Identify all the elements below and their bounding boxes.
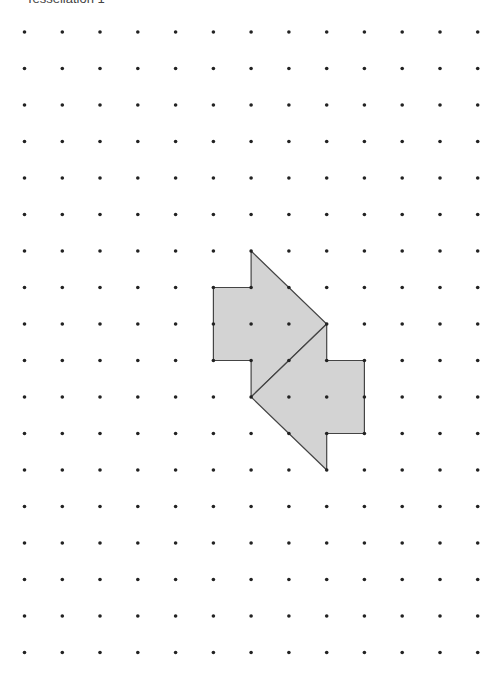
grid-dot (23, 505, 27, 509)
grid-dot (61, 541, 65, 545)
grid-dot (61, 176, 65, 180)
grid-dot (23, 468, 27, 472)
grid-dot (98, 578, 102, 582)
grid-dot (438, 359, 442, 363)
grid-dot (438, 176, 442, 180)
grid-dot (174, 651, 178, 655)
grid-dot (363, 651, 367, 655)
grid-dot (98, 322, 102, 326)
grid-dot (363, 176, 367, 180)
grid-dot (61, 322, 65, 326)
grid-dot (438, 505, 442, 509)
grid-dot (98, 359, 102, 363)
grid-dot (23, 541, 27, 545)
grid-dot (363, 505, 367, 509)
grid-dot (212, 505, 216, 509)
grid-dot (438, 286, 442, 290)
grid-dot (212, 578, 216, 582)
grid-dot (363, 140, 367, 144)
grid-dot (212, 176, 216, 180)
grid-dot (61, 286, 65, 290)
grid-dot (438, 322, 442, 326)
grid-dot (287, 30, 291, 34)
grid-dot (136, 468, 140, 472)
grid-dot (287, 541, 291, 545)
grid-dot (400, 359, 404, 363)
grid-dot (212, 395, 216, 399)
grid-dot (287, 578, 291, 582)
grid-dot (249, 213, 253, 217)
grid-dot (476, 541, 480, 545)
grid-dot (61, 395, 65, 399)
grid-dot (61, 468, 65, 472)
grid-dot (363, 614, 367, 618)
grid-dot (287, 213, 291, 217)
grid-dot (287, 67, 291, 71)
grid-dot (438, 67, 442, 71)
grid-dot (23, 651, 27, 655)
grid-dot (23, 395, 27, 399)
grid-dot (23, 176, 27, 180)
grid-dot (363, 213, 367, 217)
grid-dot (212, 213, 216, 217)
grid-dot (400, 213, 404, 217)
grid-dot (61, 103, 65, 107)
grid-dot (212, 541, 216, 545)
grid-dot (61, 213, 65, 217)
grid-dot (325, 541, 329, 545)
grid-dot (438, 249, 442, 253)
dot-grid-canvas (0, 0, 503, 674)
grid-dot (400, 103, 404, 107)
grid-dot (136, 103, 140, 107)
grid-dot (287, 359, 291, 363)
grid-dot (249, 249, 253, 253)
grid-dot (325, 468, 329, 472)
grid-dot (174, 395, 178, 399)
grid-dot (249, 67, 253, 71)
grid-dot (98, 505, 102, 509)
grid-dot (174, 140, 178, 144)
grid-dot (476, 395, 480, 399)
grid-dot (476, 249, 480, 253)
grid-dot (438, 30, 442, 34)
grid-dot (249, 432, 253, 436)
grid-dot (61, 505, 65, 509)
grid-dot (174, 614, 178, 618)
grid-dot (476, 322, 480, 326)
grid-dot (438, 578, 442, 582)
grid-dot (325, 249, 329, 253)
grid-dot (23, 249, 27, 253)
grid-dot (400, 395, 404, 399)
grid-dot (23, 30, 27, 34)
grid-dot (136, 541, 140, 545)
grid-dot (212, 432, 216, 436)
grid-dot (287, 614, 291, 618)
grid-dot (400, 614, 404, 618)
grid-dot (325, 432, 329, 436)
grid-dot (98, 541, 102, 545)
grid-dot (400, 140, 404, 144)
grid-dot (212, 103, 216, 107)
grid-dot (98, 651, 102, 655)
grid-dot (174, 30, 178, 34)
grid-dot (212, 140, 216, 144)
grid-dot (212, 614, 216, 618)
grid-dot (476, 213, 480, 217)
grid-dot (363, 322, 367, 326)
grid-dot (174, 213, 178, 217)
grid-dot (61, 651, 65, 655)
grid-dot (136, 249, 140, 253)
grid-dot (249, 322, 253, 326)
grid-dot (174, 578, 178, 582)
grid-dot (136, 432, 140, 436)
grid-dot (98, 395, 102, 399)
grid-dot (212, 651, 216, 655)
grid-dot (98, 468, 102, 472)
grid-dot (363, 468, 367, 472)
grid-dot (212, 30, 216, 34)
grid-dot (136, 614, 140, 618)
grid-dot (174, 103, 178, 107)
grid-dot (174, 176, 178, 180)
grid-dot (212, 322, 216, 326)
grid-dot (249, 286, 253, 290)
